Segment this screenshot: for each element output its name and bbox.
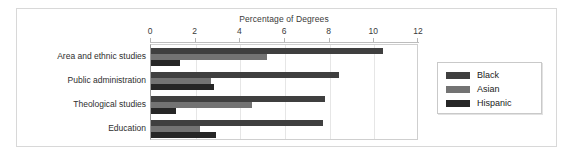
x-tick-label-4: 4 — [237, 26, 242, 36]
bar-group — [151, 69, 417, 93]
plot-area — [150, 44, 418, 140]
legend-swatch-icon — [446, 100, 470, 107]
chart-legend: BlackAsianHispanic — [437, 62, 542, 114]
bar-hispanic-3 — [151, 132, 216, 138]
legend-item-asian[interactable]: Asian — [446, 83, 500, 95]
x-tick-label-8: 8 — [326, 26, 331, 36]
legend-swatch-icon — [446, 72, 470, 79]
x-axis-line — [150, 42, 419, 43]
x-axis-tick-labels: 024681012 — [150, 26, 418, 38]
legend-label: Asian — [477, 84, 500, 94]
x-tick-label-6: 6 — [282, 26, 287, 36]
bar-group — [151, 45, 417, 69]
x-tick-label-2: 2 — [192, 26, 197, 36]
category-label: Area and ethnic studies — [57, 51, 146, 61]
bar-hispanic-1 — [151, 84, 214, 90]
legend-item-black[interactable]: Black — [446, 69, 499, 81]
bar-group — [151, 117, 417, 140]
legend-label: Hispanic — [477, 98, 512, 108]
x-tick-label-0: 0 — [148, 26, 153, 36]
category-label: Education — [108, 123, 146, 133]
category-label: Public administration — [68, 75, 146, 85]
bar-hispanic-0 — [151, 60, 180, 66]
bar-group — [151, 93, 417, 117]
bar-hispanic-2 — [151, 108, 176, 114]
legend-label: Black — [477, 70, 499, 80]
chart-title: Percentage of Degrees — [150, 14, 418, 24]
chart-figure: Percentage of Degrees 024681012 Area and… — [0, 0, 571, 157]
x-tick-label-12: 12 — [413, 26, 422, 36]
category-label: Theological studies — [73, 99, 146, 109]
legend-item-hispanic[interactable]: Hispanic — [446, 97, 512, 109]
x-tick-label-10: 10 — [369, 26, 378, 36]
category-axis-labels: Area and ethnic studiesPublic administra… — [18, 44, 148, 140]
legend-swatch-icon — [446, 86, 470, 93]
